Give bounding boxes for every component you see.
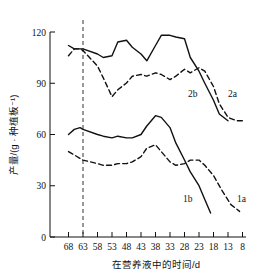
x-tick-label: 58 — [93, 242, 103, 252]
x-tick-label: 38 — [151, 242, 161, 252]
series-label-2b: 2b — [188, 89, 198, 99]
x-tick-label: 28 — [180, 242, 190, 252]
chart-container: 120 90 60 30 0 68 63 58 53 — [0, 0, 262, 276]
x-tick-label: 48 — [122, 242, 132, 252]
y-tick-label: 30 — [37, 181, 47, 191]
x-tick-label: 53 — [107, 242, 117, 252]
yield-time-line-chart: 120 90 60 30 0 68 63 58 53 — [0, 0, 262, 276]
x-tick-label: 18 — [209, 242, 219, 252]
y-tick-label: 0 — [41, 233, 46, 243]
y-tick-label: 90 — [37, 79, 47, 89]
x-tick-label: 43 — [136, 242, 146, 252]
x-tick-label: 13 — [223, 242, 233, 252]
y-axis-title: 产量/(g · 种植板⁻¹) — [8, 95, 19, 176]
x-tick-label: 68 — [64, 242, 74, 252]
x-tick-label: 63 — [78, 242, 88, 252]
x-tick-label: 8 — [240, 242, 245, 252]
series-label-1b: 1b — [183, 194, 193, 204]
x-tick-label: 33 — [165, 242, 175, 252]
x-axis-title: 在营养液中的时间/d — [112, 259, 200, 270]
y-tick-label: 60 — [37, 130, 47, 140]
series-label-2a: 2a — [228, 89, 238, 99]
x-tick-label: 23 — [194, 242, 204, 252]
series-label-1a: 1a — [237, 194, 247, 204]
y-tick-label: 120 — [32, 28, 47, 38]
